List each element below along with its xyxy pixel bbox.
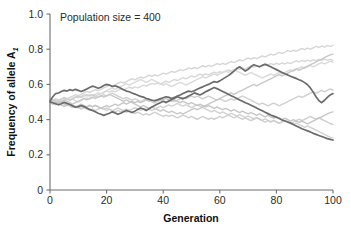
x-axis-ticks: 020406080100 — [47, 190, 342, 206]
x-tick-label: 60 — [214, 194, 226, 206]
y-axis-ticks: 00.20.40.60.81.0 — [28, 8, 50, 196]
series-layer — [50, 45, 333, 140]
chart-canvas: 00.20.40.60.81.0 020406080100 Frequency … — [0, 0, 351, 231]
y-tick-label: 1.0 — [28, 8, 43, 20]
genetic-drift-figure: 00.20.40.60.81.0 020406080100 Frequency … — [0, 0, 351, 231]
y-axis-title-main: Frequency of allele A — [5, 51, 17, 157]
x-tick-label: 0 — [47, 194, 53, 206]
x-tick-label: 20 — [101, 194, 113, 206]
y-tick-label: 0.2 — [28, 148, 43, 160]
y-axis-title-subscript: 1 — [11, 47, 20, 51]
y-axis-title: Frequency of allele A1 — [5, 47, 20, 156]
x-axis-title: Generation — [163, 212, 218, 224]
y-tick-label: 0.8 — [28, 43, 43, 55]
y-tick-label: 0 — [37, 184, 43, 196]
series-line-replicate-3-light — [50, 45, 333, 102]
x-tick-label: 100 — [324, 194, 342, 206]
x-tick-label: 40 — [157, 194, 169, 206]
x-tick-label: 80 — [271, 194, 283, 206]
svg-text:Frequency of allele A1: Frequency of allele A1 — [5, 47, 20, 156]
y-tick-label: 0.4 — [28, 113, 43, 125]
population-size-annotation: Population size = 400 — [60, 11, 161, 23]
y-tick-label: 0.6 — [28, 78, 43, 90]
